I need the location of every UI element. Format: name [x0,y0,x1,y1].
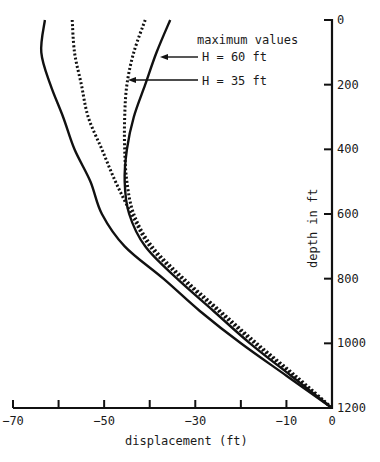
arrow-head-icon [160,54,168,60]
y-tick-label: 200 [337,79,359,91]
legend-label-h60: H = 60 ft [202,50,267,64]
x-tick-label: −10 [276,415,298,427]
series-group [41,20,332,408]
y-tick-label: 400 [337,143,359,155]
y-tick-label: 1000 [337,337,366,349]
legend-label-h35: H = 35 ft [202,74,267,88]
y-axis-label: depth in ft [306,189,320,268]
y-tick-label: 600 [337,208,359,220]
x-tick-label: −50 [93,415,115,427]
y-tick-label: 800 [337,273,359,285]
chart-canvas [0,0,380,462]
x-tick-label: 0 [328,415,335,427]
annotation-arrows [128,54,198,83]
axes [13,19,332,409]
solid-curve [41,20,332,408]
x-tick-label: −70 [2,415,24,427]
x-axis-label: displacement (ft) [125,434,248,448]
y-tick-label: 1200 [337,402,366,414]
legend-heading: maximum values [197,33,298,47]
y-tick-label: 0 [337,14,344,26]
x-tick-label: −30 [184,415,206,427]
